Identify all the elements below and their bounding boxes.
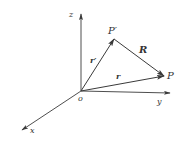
x-axis	[22, 91, 81, 130]
diagram-graphics	[0, 0, 185, 141]
vector-r-prime-label: r′	[90, 56, 96, 64]
y-axis-label: y	[157, 98, 162, 106]
vector-r	[81, 76, 164, 91]
origin-label: o	[78, 95, 83, 103]
z-axis-label: z	[69, 11, 73, 19]
vector-r-label: r	[116, 72, 120, 80]
y-axis	[81, 91, 170, 93]
x-axis-label: x	[30, 127, 35, 135]
vector-r-prime	[81, 39, 114, 91]
point-p-prime-label: P′	[108, 26, 117, 36]
vector-R-label: R	[139, 45, 147, 55]
vector-diagram: z x y o P′ P r′ r R	[0, 0, 185, 141]
point-p-label: P	[167, 71, 174, 81]
